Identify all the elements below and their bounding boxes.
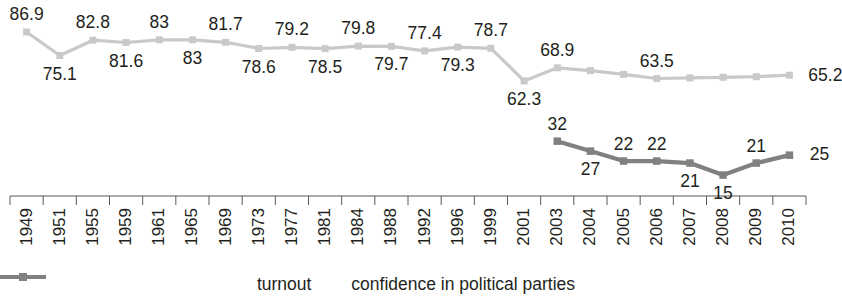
series-marker xyxy=(786,72,793,79)
x-tick-label: 1965 xyxy=(183,208,200,246)
data-label: 21 xyxy=(747,138,766,156)
data-label: 78.6 xyxy=(242,59,276,77)
data-label: 81.7 xyxy=(209,16,243,34)
series-marker xyxy=(554,137,562,145)
x-tick-label: 1961 xyxy=(150,208,167,246)
x-tick-label: 1992 xyxy=(416,208,433,246)
data-label: 63.5 xyxy=(640,53,674,71)
series-marker xyxy=(653,157,661,165)
data-label: 79.7 xyxy=(374,56,408,74)
data-label: 79.3 xyxy=(441,57,475,75)
data-label: 79.8 xyxy=(341,20,375,38)
x-tick-label: 2001 xyxy=(515,208,532,246)
x-tick-label: 1949 xyxy=(18,208,35,246)
series-marker xyxy=(653,75,660,82)
data-label: 21 xyxy=(680,173,699,191)
legend-swatch-icon xyxy=(0,270,46,284)
series-marker xyxy=(388,43,395,50)
series-marker xyxy=(454,44,461,51)
legend-label: turnout xyxy=(257,276,311,294)
x-tick-label: 2005 xyxy=(615,208,632,246)
series-marker xyxy=(686,74,693,81)
data-label: 81.6 xyxy=(109,53,143,71)
data-label: 77.4 xyxy=(408,25,442,43)
data-label: 78.7 xyxy=(474,22,508,40)
x-tick-label: 1996 xyxy=(449,208,466,246)
x-tick-label: 2009 xyxy=(747,208,764,246)
series-marker xyxy=(123,39,130,46)
data-label: 65.2 xyxy=(808,67,842,85)
data-label: 68.9 xyxy=(540,42,574,60)
data-label: 15 xyxy=(713,185,732,203)
series-marker xyxy=(355,43,362,50)
series-marker xyxy=(222,39,229,46)
x-tick-label: 2008 xyxy=(714,208,731,246)
series-marker xyxy=(322,45,329,52)
data-label: 82.8 xyxy=(76,14,110,32)
series-marker xyxy=(587,147,595,155)
series-marker xyxy=(720,74,727,81)
x-tick-label: 1988 xyxy=(382,208,399,246)
x-tick-label: 2007 xyxy=(681,208,698,246)
legend-label: confidence in political parties xyxy=(351,276,575,294)
x-tick-label: 2003 xyxy=(548,208,565,246)
legend-item[interactable]: turnout xyxy=(257,276,311,294)
x-tick-label: 1955 xyxy=(84,208,101,246)
data-label: 27 xyxy=(581,161,600,179)
x-tick-label: 1973 xyxy=(250,208,267,246)
series-marker xyxy=(719,171,727,179)
data-label: 22 xyxy=(647,136,666,154)
x-tick-label: 1999 xyxy=(482,208,499,246)
data-label: 83 xyxy=(150,14,169,32)
x-tick-label: 1959 xyxy=(117,208,134,246)
data-label: 78.5 xyxy=(308,59,342,77)
series-marker xyxy=(753,73,760,80)
series-marker xyxy=(521,77,528,84)
series-marker xyxy=(753,159,761,167)
x-tick-label: 1977 xyxy=(283,208,300,246)
data-label: 79.2 xyxy=(275,21,309,39)
series-marker xyxy=(554,64,561,71)
series-marker xyxy=(620,71,627,78)
data-label: 22 xyxy=(614,136,633,154)
x-tick-label: 1984 xyxy=(349,208,366,246)
series-marker xyxy=(89,37,96,44)
data-label: 32 xyxy=(548,116,567,134)
legend-item[interactable]: confidence in political parties xyxy=(351,276,575,294)
series-marker xyxy=(189,36,196,43)
x-tick-label: 1981 xyxy=(316,208,333,246)
x-axis xyxy=(10,196,806,205)
series-marker xyxy=(587,67,594,74)
x-tick-label: 2010 xyxy=(780,208,797,246)
data-label: 83 xyxy=(183,50,202,68)
series-marker xyxy=(156,36,163,43)
series-marker xyxy=(56,52,63,59)
series-marker xyxy=(487,45,494,52)
series-marker xyxy=(686,159,694,167)
data-label: 25 xyxy=(810,146,829,164)
series-marker xyxy=(786,151,794,159)
series-marker xyxy=(620,157,628,165)
series-marker xyxy=(288,44,295,51)
data-label: 86.9 xyxy=(10,6,44,24)
data-label: 62.3 xyxy=(507,91,541,109)
x-tick-label: 2006 xyxy=(648,208,665,246)
x-tick-label: 2004 xyxy=(581,208,598,246)
series-marker xyxy=(255,45,262,52)
series-marker xyxy=(23,29,30,36)
data-label: 75.1 xyxy=(43,66,77,84)
series-marker xyxy=(421,47,428,54)
x-tick-label: 1969 xyxy=(217,208,234,246)
chart-legend: turnoutconfidence in political parties xyxy=(0,270,832,300)
x-tick-label: 1951 xyxy=(51,208,68,246)
